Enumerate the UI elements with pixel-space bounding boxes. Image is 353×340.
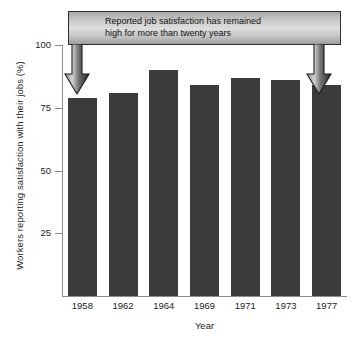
bar: [271, 80, 300, 296]
annotation-callout-text: Reported job satisfaction has remained h…: [105, 16, 340, 39]
bar-chart-figure: Workers reporting satisfaction with thei…: [0, 0, 353, 340]
annotation-arrow-left-icon: [64, 44, 90, 96]
x-axis-line: [62, 296, 347, 297]
x-axis-tick-label: 1973: [266, 301, 307, 311]
bar: [190, 85, 219, 296]
y-axis-tick-label: 25: [20, 228, 51, 238]
y-axis-tick: [55, 233, 62, 234]
bar: [149, 70, 178, 296]
bar: [312, 85, 341, 296]
y-axis-tick-label: 100: [20, 40, 51, 50]
x-axis-title: Year: [62, 320, 347, 331]
y-axis-tick: [55, 45, 62, 46]
y-axis-tick: [55, 171, 62, 172]
x-axis-tick-label: 1958: [62, 301, 103, 311]
annotation-arrow-right-icon: [306, 44, 332, 96]
x-axis-tick-label: 1969: [184, 301, 225, 311]
y-axis-line: [62, 45, 63, 297]
x-axis-tick-label: 1971: [225, 301, 266, 311]
y-axis-tick-label: 75: [20, 103, 51, 113]
bar: [68, 98, 97, 296]
y-axis-tick-label: 50: [20, 166, 51, 176]
x-axis-tick-label: 1977: [306, 301, 347, 311]
bar: [231, 78, 260, 296]
x-axis-tick-label: 1964: [143, 301, 184, 311]
annotation-callout-box: Reported job satisfaction has remained h…: [68, 11, 341, 45]
bar: [109, 93, 138, 296]
y-axis-tick: [55, 108, 62, 109]
x-axis-tick-label: 1962: [103, 301, 144, 311]
